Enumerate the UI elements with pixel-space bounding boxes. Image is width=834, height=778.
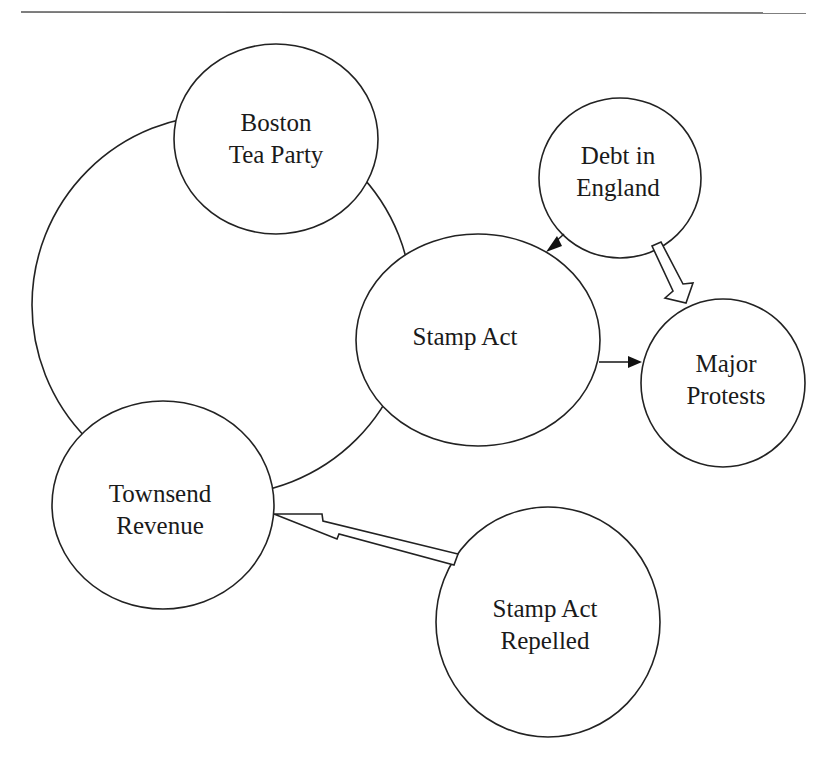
arrow-stamp-to-protests <box>599 356 642 368</box>
label-major-protests: Major Protests <box>686 348 765 412</box>
label-line: Boston <box>229 107 324 139</box>
label-debt-in-england: Debt in England <box>576 140 659 204</box>
arrow-debt-to-protests <box>652 242 693 303</box>
label-line: England <box>576 172 659 204</box>
label-line: Repelled <box>493 625 598 657</box>
label-boston-tea-party: Boston Tea Party <box>229 107 324 171</box>
label-line: Revenue <box>109 510 211 542</box>
label-line: Tea Party <box>229 139 324 171</box>
label-line: Major <box>686 348 765 380</box>
arrow-repelled-to-townsend <box>274 514 458 565</box>
label-line: Debt in <box>576 140 659 172</box>
label-townsend-revenue: Townsend Revenue <box>109 478 211 542</box>
label-line: Stamp Act <box>493 593 598 625</box>
label-stamp-act-repelled: Stamp Act Repelled <box>493 593 598 657</box>
arrow-debt-to-stamp <box>546 234 564 252</box>
label-line: Townsend <box>109 478 211 510</box>
label-line: Protests <box>686 380 765 412</box>
label-line: Stamp Act <box>413 321 518 353</box>
top-rule <box>21 12 806 13</box>
label-stamp-act: Stamp Act <box>413 321 518 353</box>
